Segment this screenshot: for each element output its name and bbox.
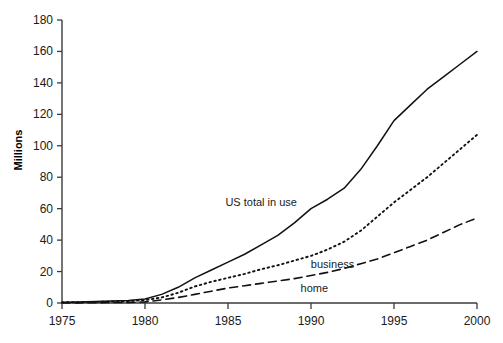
- series-line-1: [62, 135, 477, 303]
- series-line-0: [62, 51, 477, 302]
- y-tick-label: 20: [40, 265, 54, 279]
- series-annotations: US total in usebusinesshome: [225, 196, 354, 294]
- y-tick-label: 0: [46, 296, 53, 310]
- x-tick-label: 1990: [298, 314, 325, 328]
- series-layer: [62, 51, 477, 302]
- y-tick-label: 40: [40, 233, 54, 247]
- y-tick-label: 100: [33, 139, 53, 153]
- line-chart: 020406080100120140160180 197519801985199…: [0, 0, 503, 343]
- x-axis: 197519801985199019952000: [49, 303, 491, 328]
- y-axis: 020406080100120140160180: [33, 13, 62, 310]
- y-tick-label: 80: [40, 170, 54, 184]
- y-tick-label: 180: [33, 13, 53, 27]
- y-axis-title: Millions: [12, 130, 24, 171]
- series-label-0: US total in use: [225, 196, 297, 208]
- series-line-2: [62, 218, 477, 303]
- x-tick-label: 1995: [381, 314, 408, 328]
- y-tick-label: 160: [33, 44, 53, 58]
- x-tick-label: 2000: [464, 314, 491, 328]
- y-tick-label: 60: [40, 202, 54, 216]
- y-tick-label: 140: [33, 76, 53, 90]
- chart-container: 020406080100120140160180 197519801985199…: [0, 0, 503, 343]
- y-tick-label: 120: [33, 107, 53, 121]
- x-tick-label: 1980: [132, 314, 159, 328]
- series-label-2: home: [301, 282, 329, 294]
- x-tick-label: 1975: [49, 314, 76, 328]
- series-label-1: business: [311, 258, 355, 270]
- x-tick-label: 1985: [215, 314, 242, 328]
